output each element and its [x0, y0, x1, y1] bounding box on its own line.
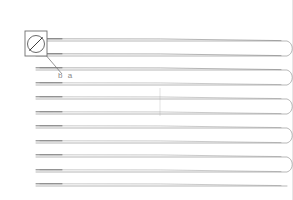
toolpath-return-stroke [40, 97, 281, 99]
toolpath-return-stroke [40, 170, 281, 172]
technical-drawing: b a [0, 0, 293, 200]
toolpath-return-stroke [40, 83, 281, 85]
drawing-canvas: b a Serpentine Toolpath Drawing ⊘ b a [0, 0, 293, 200]
toolpath-return-stroke [40, 184, 281, 186]
toolpath-return-stroke [40, 155, 281, 157]
toolpath-return-stroke [40, 126, 281, 128]
toolpath-return-stroke [40, 141, 281, 143]
toolpath-stroke [36, 41, 292, 186]
toolpath-return-stroke [40, 54, 281, 56]
toolpath-return-stroke [40, 112, 281, 114]
toolpath-return-stroke [40, 39, 281, 41]
serpentine-toolpath [36, 39, 292, 186]
detail-callout[interactable] [25, 31, 47, 56]
dimension-label: b a [58, 71, 74, 80]
toolpath-return-stroke [40, 68, 281, 70]
